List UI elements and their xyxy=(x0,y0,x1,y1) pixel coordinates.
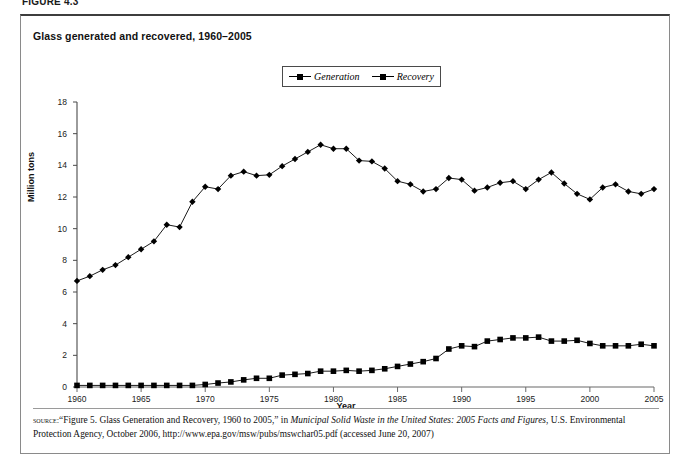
y-tick-label: 8 xyxy=(45,255,67,265)
y-tick-label: 12 xyxy=(45,192,67,202)
x-tick-label: 1960 xyxy=(62,394,92,404)
x-tick-label: 2000 xyxy=(575,394,605,404)
source-divider xyxy=(33,408,659,409)
plot-area xyxy=(21,16,671,456)
y-tick-label: 18 xyxy=(45,97,67,107)
y-tick-label: 0 xyxy=(45,382,67,392)
source-text-part1: “Figure 5. Glass Generation and Recovery… xyxy=(59,415,290,425)
y-tick-label: 10 xyxy=(45,224,67,234)
x-tick-label: 1970 xyxy=(190,394,220,404)
y-tick-label: 14 xyxy=(45,160,67,170)
y-tick-label: 2 xyxy=(45,350,67,360)
x-tick-label: 1965 xyxy=(126,394,156,404)
y-tick-label: 4 xyxy=(45,319,67,329)
chart-svg xyxy=(21,16,671,456)
y-tick-label: 16 xyxy=(45,129,67,139)
source-keyword: source: xyxy=(33,415,59,425)
figure-container: Glass generated and recovered, 1960–2005… xyxy=(20,14,670,454)
source-note: source:“Figure 5. Glass Generation and R… xyxy=(33,414,659,441)
y-tick-label: 6 xyxy=(45,287,67,297)
x-tick-label: 1990 xyxy=(447,394,477,404)
y-axis-label: Million tons xyxy=(26,152,36,202)
x-tick-label: 1985 xyxy=(383,394,413,404)
x-tick-label: 1975 xyxy=(254,394,284,404)
x-tick-label: 1980 xyxy=(318,394,348,404)
figure-label: FIGURE 4.3 xyxy=(22,0,78,7)
x-tick-label: 1995 xyxy=(511,394,541,404)
x-tick-label: 2005 xyxy=(639,394,669,404)
source-publication-title: Municipal Solid Waste in the United Stat… xyxy=(290,415,546,425)
